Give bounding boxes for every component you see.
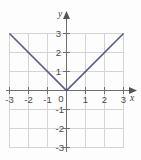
x-tick-label-neg3: -3	[5, 94, 13, 105]
x-tick-label-neg2: -2	[24, 94, 32, 105]
y-tick-label-neg1: -1	[56, 104, 64, 115]
graph-screenshot: -3 -2 -1 0 1 2 3 3 2 1 -1 -2 -3 y x	[0, 0, 141, 160]
y-axis-label: y	[57, 9, 63, 19]
x-tick-label-pos3: 3	[121, 94, 126, 105]
x-tick-label-neg1: -1	[43, 94, 51, 105]
x-axis-label: x	[129, 93, 135, 103]
x-tick-label-pos2: 2	[102, 94, 107, 105]
y-tick-label-pos2: 2	[56, 47, 61, 58]
y-tick-label-neg2: -2	[56, 123, 64, 134]
y-tick-label-pos1: 1	[56, 66, 61, 77]
plot-background	[0, 0, 141, 160]
coordinate-plane-graph: -3 -2 -1 0 1 2 3 3 2 1 -1 -2 -3 y x	[0, 0, 141, 160]
y-tick-label-pos3: 3	[56, 28, 61, 39]
x-tick-label-pos1: 1	[83, 94, 88, 105]
y-tick-label-neg3: -3	[56, 142, 64, 153]
origin-label: 0	[58, 93, 63, 104]
